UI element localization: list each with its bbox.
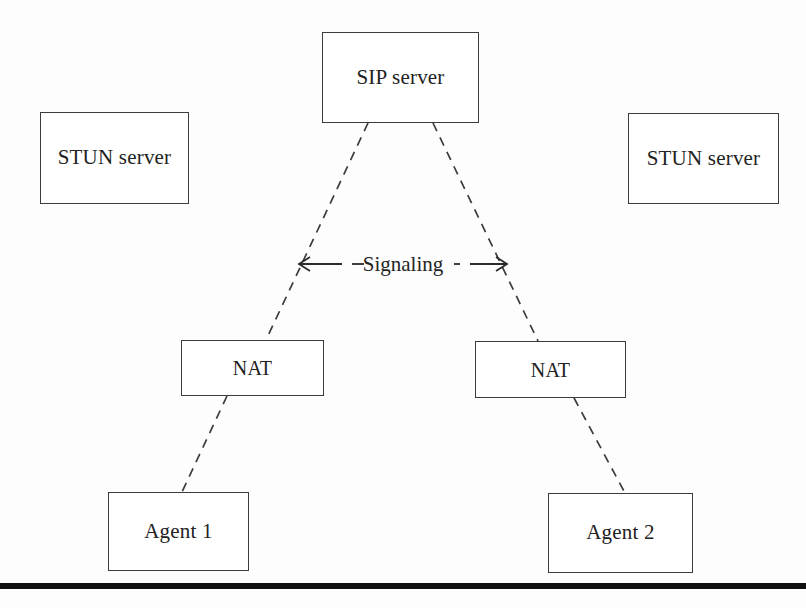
node-agent-2-label: Agent 2 [586, 521, 654, 544]
edge-sip-to-nat-left [266, 123, 368, 340]
node-sip-server-label: SIP server [356, 66, 444, 89]
bottom-horizontal-rule [0, 583, 806, 589]
node-agent-1: Agent 1 [108, 492, 249, 571]
node-nat-right-label: NAT [531, 359, 571, 381]
node-agent-2: Agent 2 [548, 493, 693, 573]
edge-nat-right-to-agent [574, 398, 625, 493]
node-nat-right: NAT [475, 341, 626, 398]
node-nat-left-label: NAT [233, 357, 273, 379]
node-stun-server-right-label: STUN server [647, 147, 761, 170]
edge-sip-to-nat-right [433, 123, 538, 341]
edge-nat-left-to-agent [182, 396, 227, 492]
node-stun-server-left: STUN server [40, 112, 189, 204]
diagram-canvas: SIP server STUN server STUN server NAT N… [0, 0, 806, 608]
node-stun-server-left-label: STUN server [58, 146, 172, 169]
node-stun-server-right: STUN server [628, 113, 779, 204]
node-nat-left: NAT [181, 340, 324, 396]
node-agent-1-label: Agent 1 [144, 520, 212, 543]
node-sip-server: SIP server [322, 32, 479, 123]
